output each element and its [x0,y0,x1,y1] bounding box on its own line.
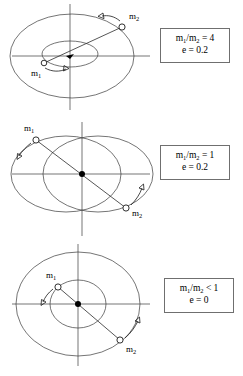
orbit-panel-3: m1 m2 m1/m2 < 1 e = 0 [0,240,243,376]
m2-label: m2 [129,11,139,22]
panel-3-eccentricity: e = 0 [171,295,227,307]
m2-body-marker [119,24,125,30]
orbit-diagram-1: m2 m1 [0,0,160,118]
orbit-panel-2: m1 m2 m1/m2 = 1 e = 0.2 [0,118,243,240]
m1-label: m1 [46,270,56,281]
m1-direction-arrowhead [41,300,46,306]
panel-3-mass-ratio: m1/m2 < 1 [171,283,227,295]
m2-body-marker [117,337,123,343]
orbit-panel-1: m2 m1 m1/m2 = 4 e = 0.2 [0,0,243,118]
m2-label: m2 [132,208,142,219]
mass-connecting-line [44,27,122,63]
m1-body-marker [41,60,47,66]
panel-3-parameter-box: m1/m2 < 1 e = 0 [164,278,234,313]
panel-1-eccentricity: e = 0.2 [167,45,223,57]
barycenter-marker [79,171,85,177]
orbit-diagram-figure: m2 m1 m1/m2 = 4 e = 0.2 [0,0,243,376]
mass-connecting-line [58,287,120,340]
m2-body-marker [123,205,129,211]
m1-direction-arc [45,68,66,71]
m1-body-marker [33,137,39,143]
m1-label: m1 [31,68,41,79]
orbit-diagram-2: m1 m2 [0,118,160,240]
panel-2-eccentricity: e = 0.2 [167,162,223,174]
m1-label: m1 [24,123,34,134]
m2-direction-arc [131,188,142,205]
panel-1-mass-ratio: m1/m2 = 4 [167,33,223,45]
panel-2-mass-ratio: m1/m2 = 1 [167,150,223,162]
m1-body-marker [55,284,61,290]
panel-2-parameter-box: m1/m2 = 1 e = 0.2 [160,145,230,180]
panel-1-parameter-box: m1/m2 = 4 e = 0.2 [160,28,230,63]
m1-direction-arc [19,143,31,156]
m2-direction-arrowhead [139,184,144,190]
barycenter-marker [75,301,81,307]
m1-direction-arrowhead [17,154,22,160]
m2-label: m2 [126,344,136,355]
orbit-diagram-3: m1 m2 [0,240,160,376]
